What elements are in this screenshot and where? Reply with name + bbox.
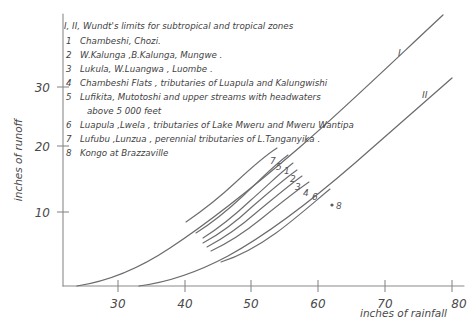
legend-item-7-text: Lufubu ,Lunzua , perennial tributaries o… bbox=[80, 134, 320, 144]
legend-item-1-text: Chambeshi, Chozi. bbox=[80, 36, 161, 46]
legend-item-8-key: 8 bbox=[66, 148, 72, 158]
legend-header-text: Wundt's limits for subtropical and tropi… bbox=[83, 21, 294, 31]
y-tick-label-20: 20 bbox=[35, 140, 51, 154]
curve-1 bbox=[203, 163, 293, 238]
legend-item-5-key: 5 bbox=[66, 92, 72, 102]
legend-item-3-key: 3 bbox=[66, 64, 72, 74]
x-axis-title: inches of rainfall bbox=[360, 307, 447, 319]
chart-figure: 30 20 10 30 40 50 60 70 80 inches of run… bbox=[0, 0, 472, 325]
curve-label-6: 6 bbox=[312, 192, 318, 202]
legend-item-5-continuation: above 5 000 feet bbox=[87, 106, 162, 116]
legend-item-2-key: 2 bbox=[66, 50, 72, 60]
curve-label-5: 5 bbox=[276, 162, 282, 172]
x-tick-label-80: 80 bbox=[451, 297, 467, 311]
legend-item-2-text: W.Kalunga ,B.Kalunga, Mungwe . bbox=[80, 50, 222, 60]
legend-header-key: I, II, bbox=[64, 21, 80, 31]
legend-item-8-text: Kongo at Brazzaville bbox=[80, 148, 168, 158]
curve-5 bbox=[196, 155, 288, 233]
legend-item-1-key: 1 bbox=[66, 36, 72, 46]
curve-label-4: 4 bbox=[303, 188, 309, 198]
legend-item-6-key: 6 bbox=[66, 120, 72, 130]
legend-item-6-text: Luapula ,Lwela , tributaries of Lake Mwe… bbox=[80, 120, 354, 130]
legend-item-4-key: 4 bbox=[66, 78, 72, 88]
curve-label-II: II bbox=[422, 89, 428, 100]
curve-label-3: 3 bbox=[295, 182, 301, 192]
x-tick-label-50: 50 bbox=[243, 297, 259, 311]
y-tick-label-10: 10 bbox=[35, 206, 51, 220]
legend-item-3-text: Lukula, W.Luangwa , Luombe . bbox=[80, 64, 213, 74]
x-tick-label-60: 60 bbox=[310, 297, 326, 311]
x-tick-label-40: 40 bbox=[177, 297, 193, 311]
y-axis-title: inches of runoff bbox=[12, 117, 24, 201]
curve-2 bbox=[203, 170, 297, 243]
y-tick-label-30: 30 bbox=[35, 81, 51, 95]
curve-label-1: 1 bbox=[284, 166, 290, 176]
curve-label-I: I bbox=[398, 47, 401, 58]
legend-block: I, II, Wundt's limits for subtropical an… bbox=[64, 21, 354, 158]
curve-label-8: 8 bbox=[336, 201, 342, 211]
data-point-8 bbox=[330, 203, 333, 206]
legend-item-4-text: Chambeshi Flats , tributaries of Luapula… bbox=[80, 78, 328, 88]
legend-item-7-key: 7 bbox=[66, 134, 72, 144]
curve-7 bbox=[186, 148, 277, 222]
legend-item-5-text: Lufikita, Mutotoshi and upper streams wi… bbox=[80, 92, 321, 102]
x-tick-label-30: 30 bbox=[110, 297, 126, 311]
